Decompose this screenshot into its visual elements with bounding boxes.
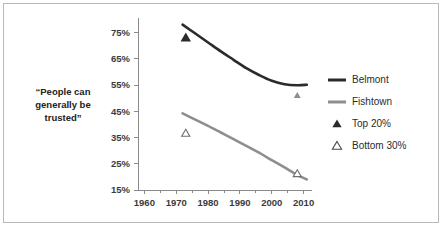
x-axis-tick-label: 1980 [198, 197, 219, 208]
chart-plot: 15%25%35%45%55%65%75%1960197019801990200… [0, 0, 442, 226]
legend-swatch-top-20 [332, 119, 341, 127]
x-axis-tick-label: 1990 [229, 197, 250, 208]
x-axis-tick-label: 1960 [134, 197, 155, 208]
y-axis-tick-label: 65% [111, 53, 131, 64]
chart-figure: 15%25%35%45%55%65%75%1960197019801990200… [0, 0, 442, 226]
x-axis-tick-label: 1970 [166, 197, 187, 208]
y-axis-tick-label: 35% [111, 132, 131, 143]
marker-top-20- [294, 92, 301, 98]
y-axis-tick-label: 75% [111, 27, 131, 38]
x-axis-tick-label: 2000 [261, 197, 282, 208]
legend-swatch-bottom-30 [332, 141, 341, 149]
y-axis-title-line: generally be [35, 99, 90, 110]
y-axis-tick-label: 55% [111, 79, 131, 90]
series-line-fishtown [183, 113, 307, 179]
marker-bottom-30- [182, 129, 190, 136]
marker-top-20- [181, 33, 191, 42]
series-line-belmont [183, 25, 307, 86]
legend-label-top-20-: Top 20% [352, 118, 391, 129]
x-axis-tick-label: 2010 [293, 197, 314, 208]
y-axis-tick-label: 15% [111, 184, 131, 195]
legend-label-belmont: Belmont [352, 74, 389, 85]
legend-label-bottom-30-: Bottom 30% [352, 140, 407, 151]
y-axis-tick-label: 45% [111, 106, 131, 117]
y-axis-title-line: “People can [36, 86, 91, 97]
legend-label-fishtown: Fishtown [352, 96, 392, 107]
y-axis-title-line: trusted” [45, 112, 82, 123]
y-axis-tick-label: 25% [111, 158, 131, 169]
